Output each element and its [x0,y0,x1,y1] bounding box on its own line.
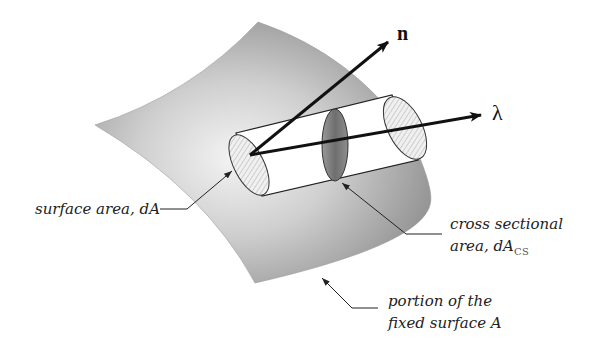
diagram-graphics [0,0,590,351]
lambda-vector-label: λ [492,100,503,126]
cross-section-subscript: CS [514,246,530,257]
portion-surface-label-line1: portion of the [388,292,492,311]
surface-area-label: surface area, dA [35,200,160,219]
cross-section-label-text: area, dA [450,237,514,255]
portion-surface-label-line2: fixed surface A [388,314,502,333]
cross-section-ellipse [322,109,348,181]
normal-vector-label: n [397,22,408,45]
portion-surface-leader [322,278,378,308]
cross-section-label-line1: cross sectional [450,215,563,234]
cross-section-label-line2: area, dACS [450,237,529,261]
diagram-canvas: n λ surface area, dA cross sectional are… [0,0,590,351]
